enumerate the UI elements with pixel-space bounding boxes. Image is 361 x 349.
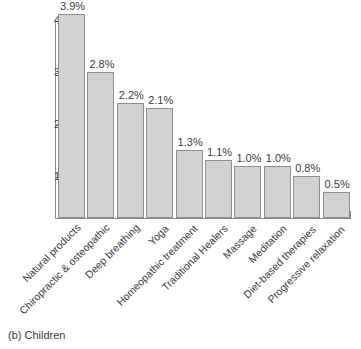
bar [234,166,261,218]
bar [323,192,350,218]
bar [87,72,114,218]
bar-value-label: 2.2% [119,90,144,101]
bar-value-label: 3.9% [60,1,85,12]
bar-value-label: 0.8% [295,163,320,174]
bar-value-label: 1.1% [207,147,232,158]
bar-value-label: 1.3% [178,137,203,148]
bar [117,103,144,218]
bars-layer: 3.9%2.8%2.2%2.1%1.3%1.1%1.0%1.0%0.8%0.5% [0,0,361,218]
bar-value-label: 0.5% [325,179,350,190]
plot-area: 4 3 2 1 3.9%2.8%2.2%2.1%1.3%1.1%1.0%1.0%… [0,0,361,232]
bar [264,166,291,218]
bar-value-label: 1.0% [266,153,291,164]
bar-value-label: 2.1% [148,95,173,106]
bar [58,14,85,218]
x-axis-labels: Natural productsChiropractic & osteopath… [0,218,361,328]
bar [146,108,173,218]
bar-chart-figure: 4 3 2 1 3.9%2.8%2.2%2.1%1.3%1.1%1.0%1.0%… [0,0,361,349]
bar [293,176,320,218]
bar-value-label: 2.8% [89,59,114,70]
bar [205,160,232,218]
figure-caption: (b) Children [8,329,65,342]
bar [176,150,203,218]
bar-value-label: 1.0% [236,153,261,164]
